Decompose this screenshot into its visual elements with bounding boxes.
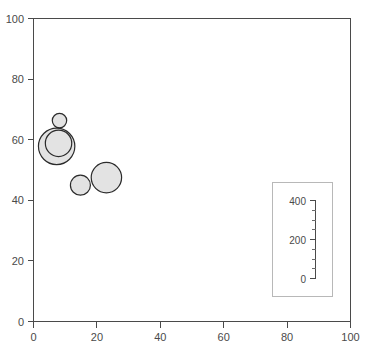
bubble-chart: 0 20 40 60 80 100 0 20 40 60 80	[0, 0, 366, 362]
y-tick-label-40: 40	[12, 194, 24, 206]
x-tick-label-100: 100	[341, 331, 359, 343]
x-tick-label-20: 20	[91, 331, 103, 343]
y-tick-label-80: 80	[12, 73, 24, 85]
legend-label-400: 400	[289, 196, 306, 207]
y-tick-label-0: 0	[18, 316, 24, 328]
x-tick-label-60: 60	[218, 331, 230, 343]
bubble-point[interactable]	[52, 113, 66, 127]
y-tick-label-100: 100	[6, 13, 24, 25]
legend-label-200: 200	[289, 235, 306, 246]
y-tick-label-60: 60	[12, 134, 24, 146]
x-axis: 0 20 40 60 80 100	[30, 322, 359, 344]
x-tick-label-40: 40	[154, 331, 166, 343]
legend-label-0: 0	[300, 274, 306, 285]
y-tick-label-20: 20	[12, 255, 24, 267]
bubble-series	[38, 113, 121, 195]
chart-canvas: 0 20 40 60 80 100 0 20 40 60 80	[0, 0, 366, 362]
x-tick-label-0: 0	[30, 331, 36, 343]
bubble-point[interactable]	[70, 175, 90, 195]
y-axis: 0 20 40 60 80 100	[6, 13, 34, 328]
bubble-point[interactable]	[91, 162, 121, 192]
size-legend[interactable]: 400 200 0	[273, 183, 333, 297]
bubble-point[interactable]	[45, 130, 71, 156]
x-tick-label-80: 80	[281, 331, 293, 343]
